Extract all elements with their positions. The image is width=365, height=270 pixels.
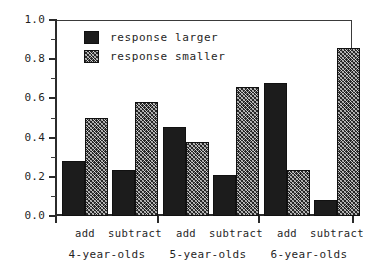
bar bbox=[287, 170, 310, 216]
legend-label: response smaller bbox=[110, 51, 226, 63]
bar bbox=[163, 127, 186, 216]
bar bbox=[135, 102, 158, 216]
hatched-square-icon bbox=[84, 50, 99, 63]
y-axis-tick-label: 0.4 bbox=[1, 132, 45, 143]
x-axis-condition-label: add bbox=[176, 228, 196, 239]
y-axis-minor-tick bbox=[51, 196, 56, 197]
bar bbox=[85, 118, 108, 216]
y-axis-tick-label: 1.0 bbox=[1, 14, 45, 25]
legend-label: response larger bbox=[110, 32, 218, 44]
x-axis-condition-label: subtract bbox=[108, 228, 162, 239]
y-axis-tick-label: 0.8 bbox=[1, 53, 45, 64]
bar bbox=[314, 200, 337, 216]
y-axis-tick bbox=[49, 137, 57, 139]
y-axis-tick-label: 0.0 bbox=[1, 210, 45, 221]
y-axis-minor-tick bbox=[51, 118, 56, 119]
x-axis-condition-label: add bbox=[75, 228, 95, 239]
y-axis-minor-tick bbox=[51, 78, 56, 79]
x-axis-tick bbox=[55, 216, 57, 223]
x-axis-tick bbox=[258, 216, 260, 223]
bar bbox=[112, 170, 135, 216]
legend-item-response-larger: response larger bbox=[84, 28, 226, 47]
y-axis-tick bbox=[49, 97, 57, 99]
x-axis-condition-label: subtract bbox=[310, 228, 364, 239]
x-axis-tick bbox=[352, 216, 354, 223]
bar bbox=[62, 161, 85, 216]
legend-item-response-smaller: response smaller bbox=[84, 47, 226, 66]
y-axis-tick bbox=[49, 19, 57, 21]
y-axis-minor-tick bbox=[51, 39, 56, 40]
x-axis-group-label: 5-year-olds bbox=[169, 249, 246, 261]
y-axis-minor-tick bbox=[51, 157, 56, 158]
y-axis-tick bbox=[49, 58, 57, 60]
y-axis-tick-label: 0.6 bbox=[1, 92, 45, 103]
bar bbox=[264, 83, 287, 216]
bar bbox=[236, 87, 259, 216]
bar bbox=[213, 175, 236, 216]
x-axis-condition-label: add bbox=[277, 228, 297, 239]
x-axis-tick bbox=[157, 216, 159, 223]
legend: response larger response smaller bbox=[84, 28, 226, 66]
y-axis-tick-label: 0.2 bbox=[1, 171, 45, 182]
x-axis-group-label: 6-year-olds bbox=[270, 249, 347, 261]
bar bbox=[337, 48, 360, 216]
x-axis-group-label: 4-year-olds bbox=[68, 249, 145, 261]
bar-chart: 1.00.80.60.40.20.0 response larger respo… bbox=[0, 0, 365, 270]
bar bbox=[186, 142, 209, 216]
solid-square-icon bbox=[84, 31, 99, 44]
y-axis-tick bbox=[49, 176, 57, 178]
x-axis-condition-label: subtract bbox=[209, 228, 263, 239]
